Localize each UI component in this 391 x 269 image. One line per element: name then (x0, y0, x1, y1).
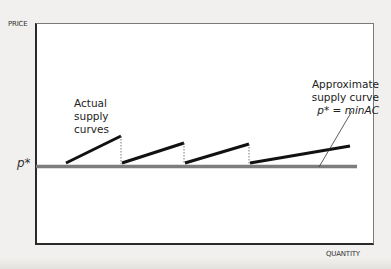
supply-segment-3 (185, 144, 249, 163)
supply-segment-2 (122, 143, 184, 163)
actual-supply-annotation: Actual supply curves (74, 97, 109, 136)
annotation-line: curves (74, 123, 109, 136)
supply-segment-4 (250, 146, 350, 163)
annotation-line: supply (74, 110, 109, 123)
pstar-tick-label: p* (17, 156, 31, 170)
annotation-line: p* = minAC (301, 104, 379, 117)
supply-curves-graphic (0, 0, 391, 269)
annotation-line: supply curve (301, 91, 379, 104)
annotation-line: Actual (74, 97, 109, 110)
page-edge (0, 258, 391, 269)
supply-segment-1 (66, 136, 121, 163)
x-axis-label: QUANTITY (326, 250, 360, 258)
annotation-line: Approximate (301, 78, 379, 91)
approx-supply-annotation: Approximate supply curve p* = minAC (301, 78, 379, 117)
annotation-pointer (319, 111, 352, 167)
y-axis-label: PRICE (8, 20, 27, 28)
